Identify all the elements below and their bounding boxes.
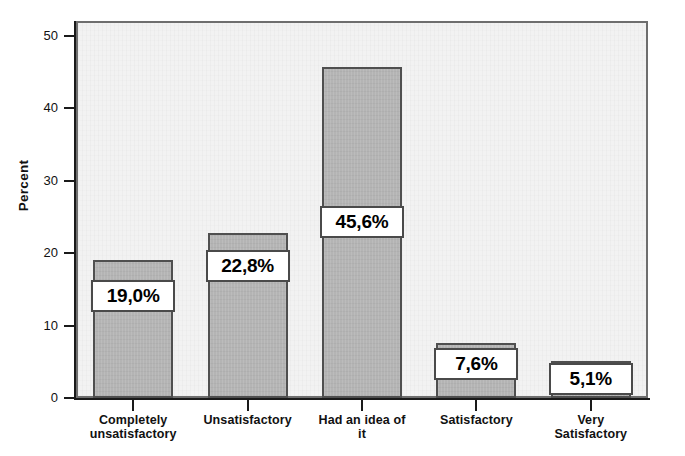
y-tick-mark xyxy=(64,107,75,109)
y-tick-mark xyxy=(64,180,75,182)
y-tick-label: 50 xyxy=(0,29,58,42)
bar-value-label: 19,0% xyxy=(91,280,175,312)
x-tick-label-line: Completely xyxy=(74,413,192,427)
x-tick-label: Completelyunsatisfactory xyxy=(74,413,192,441)
x-tick-label-line: Satisfactory xyxy=(417,413,535,427)
x-tick-mark xyxy=(361,400,363,411)
bar-value-label: 22,8% xyxy=(206,250,290,282)
x-tick-label-line: Very xyxy=(532,413,650,427)
bar-value-label: 7,6% xyxy=(434,348,518,380)
x-tick-label-line: Unsatisfactory xyxy=(189,413,307,427)
y-tick-mark xyxy=(64,252,75,254)
x-tick-label-line: Had an idea of xyxy=(303,413,421,427)
x-tick-mark xyxy=(475,400,477,411)
x-tick-label: Had an idea ofit xyxy=(303,413,421,441)
x-tick-label-line: Satisfactory xyxy=(532,427,650,441)
y-tick-label: 10 xyxy=(0,319,58,332)
y-tick-label: 40 xyxy=(0,101,58,114)
x-tick-mark xyxy=(247,400,249,411)
y-tick-label: 0 xyxy=(0,391,58,404)
y-axis-line xyxy=(74,21,76,400)
y-tick-mark xyxy=(64,35,75,37)
x-tick-label: VerySatisfactory xyxy=(532,413,650,441)
bar-value-label: 45,6% xyxy=(320,206,404,238)
x-tick-label: Satisfactory xyxy=(417,413,535,427)
x-tick-label-line: unsatisfactory xyxy=(74,427,192,441)
x-tick-label: Unsatisfactory xyxy=(189,413,307,427)
y-tick-label: 20 xyxy=(0,246,58,259)
bar-chart: Percent 01020304050 Completelyunsatisfac… xyxy=(0,0,685,456)
y-tick-mark xyxy=(64,325,75,327)
x-tick-mark xyxy=(132,400,134,411)
x-tick-label-line: it xyxy=(303,427,421,441)
x-tick-mark xyxy=(590,400,592,411)
bar-value-label: 5,1% xyxy=(549,363,633,395)
y-tick-label: 30 xyxy=(0,174,58,187)
